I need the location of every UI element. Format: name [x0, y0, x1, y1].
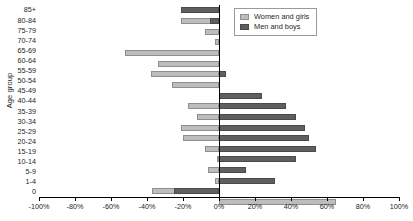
bar-men-5-9 [219, 178, 275, 184]
y-tick-75-79: 75-79 [0, 27, 36, 34]
bar-women-40-44 [188, 103, 219, 109]
x-tick-mark [291, 197, 292, 201]
y-tick-25-29: 25-29 [0, 128, 36, 135]
bar-men-85+ [181, 7, 219, 13]
x-tick-mark [327, 197, 328, 201]
y-tick-20-24: 20-24 [0, 138, 36, 145]
x-tick-mark [39, 197, 40, 201]
population-pyramid-chart: Age group 85+80-8475-7970-7465-6960-6455… [0, 0, 413, 221]
y-tick-85+: 85+ [0, 6, 36, 13]
x-tick-mark [363, 197, 364, 201]
x-tick-mark [75, 197, 76, 201]
y-tick-70-74: 70-74 [0, 37, 36, 44]
bar-men-80-84 [210, 18, 219, 24]
bar-men-40-44 [219, 103, 286, 109]
y-tick-5-9: 5-9 [0, 168, 36, 175]
bar-men-25-29 [219, 135, 309, 141]
x-tick-mark [255, 197, 256, 201]
bar-women-20-24 [205, 146, 219, 152]
plot-area [39, 5, 399, 197]
legend-label-men: Men and boys [254, 23, 300, 31]
y-tick-55-59: 55-59 [0, 67, 36, 74]
bar-men-20-24 [219, 146, 316, 152]
y-tick-40-44: 40-44 [0, 97, 36, 104]
y-tick-10-14: 10-14 [0, 158, 36, 165]
x-tick-mark [111, 197, 112, 201]
bar-men-1-4 [174, 188, 219, 194]
bar-women-60-64 [158, 61, 219, 67]
legend-item-men: Men and boys [240, 22, 309, 32]
y-tick-1-4: 1-4 [0, 178, 36, 185]
x-tick-mark [219, 197, 220, 201]
bar-women-50-54 [172, 82, 219, 88]
bar-women-75-79 [205, 29, 219, 35]
bar-men-15-19 [219, 156, 296, 162]
legend-label-women: Women and girls [254, 13, 309, 21]
y-tick-60-64: 60-64 [0, 57, 36, 64]
legend-item-women: Women and girls [240, 12, 309, 22]
bar-women-35-39 [197, 114, 219, 120]
bar-men-45-49 [219, 93, 262, 99]
zero-baseline [219, 5, 220, 197]
y-tick-35-39: 35-39 [0, 108, 36, 115]
bar-women-10-14 [208, 167, 219, 173]
y-tick-0: 0 [0, 188, 36, 195]
bar-men-35-39 [219, 114, 296, 120]
y-tick-80-84: 80-84 [0, 17, 36, 24]
men-swatch-icon [240, 24, 249, 30]
y-axis-tick-labels: 85+80-8475-7970-7465-6960-6455-5950-5445… [0, 5, 36, 197]
x-tick-mark [183, 197, 184, 201]
bar-women-55-59 [151, 71, 219, 77]
bar-women-30-34 [181, 125, 219, 131]
bar-women-25-29 [183, 135, 219, 141]
bar-women-65-69 [125, 50, 219, 56]
x-tick-mark [147, 197, 148, 201]
women-swatch-icon [240, 14, 249, 20]
y-tick-50-54: 50-54 [0, 77, 36, 84]
y-tick-45-49: 45-49 [0, 87, 36, 94]
x-tick-100%: 100% [377, 203, 413, 211]
bar-men-30-34 [219, 125, 305, 131]
y-tick-15-19: 15-19 [0, 148, 36, 155]
x-tick-mark [399, 197, 400, 201]
chart-legend: Women and girls Men and boys [234, 8, 317, 36]
y-tick-65-69: 65-69 [0, 47, 36, 54]
bar-men-10-14 [219, 167, 246, 173]
y-tick-30-34: 30-34 [0, 118, 36, 125]
